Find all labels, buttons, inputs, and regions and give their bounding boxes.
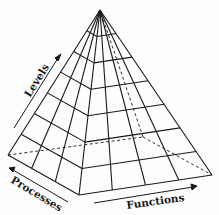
grid-line-vertical: [100, 10, 112, 190]
processes-label: Processes: [9, 173, 65, 213]
grid-line-horizontal: [82, 151, 196, 168]
grid-line-horizontal: [74, 51, 94, 62]
hidden-edge-left: [8, 137, 143, 155]
grid-line-horizontal: [61, 72, 91, 89]
grid-line-horizontal: [21, 134, 82, 168]
grid-line-horizontal: [85, 128, 180, 142]
grid-line-horizontal: [47, 93, 88, 116]
hidden-edge-right: [143, 137, 212, 175]
grid-line-vertical: [100, 10, 212, 175]
grid-line-vertical: [55, 10, 100, 182]
grid-line-vertical: [100, 10, 179, 180]
grid-line-vertical: [100, 10, 146, 185]
pyramid-diagram: Levels Processes Functions: [0, 0, 219, 215]
functions-arrowhead: [191, 184, 197, 190]
pyramid-figure: Levels Processes Functions: [0, 0, 219, 215]
processes-arrowhead: [9, 167, 15, 172]
functions-label: Functions: [126, 191, 186, 211]
hidden-edge-vertical: [100, 10, 143, 137]
levels-arrowhead: [55, 54, 61, 61]
grid-line-horizontal: [88, 104, 164, 115]
grid-line-horizontal: [34, 114, 85, 143]
grid-line-horizontal: [91, 81, 148, 90]
